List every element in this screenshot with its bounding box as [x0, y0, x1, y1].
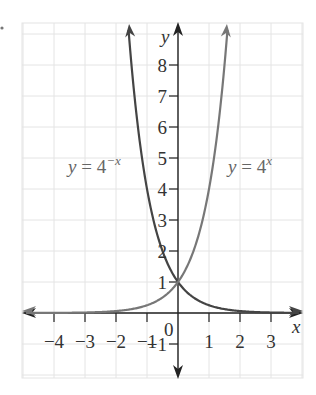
grid-lines — [22, 23, 303, 378]
x-axis-label: x — [291, 316, 301, 337]
y-tick-label: 7 — [158, 86, 168, 107]
y-tick-label: 6 — [158, 117, 168, 138]
label-exponent: −x — [106, 153, 121, 168]
y-tick-label: −1 — [147, 334, 167, 355]
y-tick-label: 8 — [158, 55, 168, 76]
label-y: y — [66, 156, 77, 177]
curve-label-4-x: y = 4x — [226, 153, 272, 177]
curve-4-x — [26, 30, 227, 313]
x-tick-label: 2 — [235, 331, 245, 352]
y-axis-label: y — [159, 26, 170, 47]
labels: y x 0 y = 4−x y = 4x −4−3−2−1123−1123456… — [44, 26, 301, 355]
y-tick-label: 5 — [158, 148, 168, 169]
x-tick-label: −2 — [106, 331, 126, 352]
curve-4-neg-x — [129, 30, 299, 313]
x-tick-label: −3 — [75, 331, 95, 352]
curve-label-4-neg-x: y = 4−x — [66, 153, 121, 177]
y-tick-label: 3 — [158, 210, 168, 231]
label-eq: = 4 — [236, 156, 266, 177]
label-y: y — [226, 156, 237, 177]
y-tick-label: 2 — [158, 241, 168, 262]
y-tick-label: 1 — [158, 272, 168, 293]
bullet-dot — [0, 26, 3, 29]
label-eq: = 4 — [76, 156, 106, 177]
y-tick-label: 4 — [158, 179, 168, 200]
x-tick-label: 3 — [266, 331, 276, 352]
exponential-chart: y x 0 y = 4−x y = 4x −4−3−2−1123−1123456… — [0, 0, 316, 395]
x-tick-label: −4 — [44, 331, 65, 352]
x-tick-label: 1 — [204, 331, 214, 352]
label-exponent: x — [265, 153, 272, 168]
